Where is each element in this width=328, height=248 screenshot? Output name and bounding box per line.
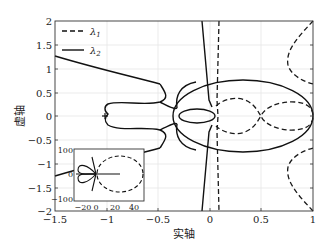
x-axis-title: 实轴 [173,227,195,241]
y-axis-title: 虚轴 [13,105,27,127]
inset-y-tick: −100 [51,195,73,204]
y-tick: −0.5 [28,135,52,146]
inset-box [74,149,144,201]
x-tick-labels: −1.5 −1 −0.5 0 0.5 1 [43,214,316,225]
y-tick: −1.5 [28,183,52,194]
y-tick: 0.5 [36,88,52,99]
inset-x-tick: 20 [110,203,120,212]
x-tick: 0 [207,214,213,225]
y-tick: 2 [46,16,52,27]
inset-y-tick: 100 [58,146,73,155]
inset-x-tick: 0 [93,203,98,212]
x-tick: 1 [310,214,316,225]
y-tick: 1.5 [36,40,52,51]
inset-y-tick: 0 [68,170,73,179]
y-tick: −2 [37,206,52,217]
y-tick: −1 [37,159,52,170]
inset-x-tick: 40 [129,203,139,212]
root-locus-chart: −1.5 −1 −0.5 0 0.5 1 2 1.5 1 0.5 0 −0.5 … [0,0,328,248]
x-tick: −1 [100,214,115,225]
x-tick: −0.5 [146,214,170,225]
y-tick: 1 [46,64,52,75]
x-tick: 0.5 [253,214,269,225]
y-tick-labels: 2 1.5 1 0.5 0 −0.5 −1 −1.5 −2 [28,16,52,217]
inset-x-tick: −20 [75,203,92,212]
y-tick: 0 [46,111,52,122]
